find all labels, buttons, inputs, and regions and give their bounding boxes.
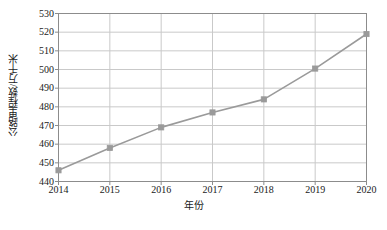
data-point-2016	[159, 125, 164, 130]
data-point-2014	[56, 168, 61, 173]
x-tick-label: 2020	[347, 184, 387, 196]
x-axis-title: 年份	[0, 200, 387, 212]
x-tick-label: 2014	[39, 184, 79, 196]
data-point-2020	[364, 31, 369, 36]
y-axis-ticks	[55, 14, 59, 182]
line-chart: 公路里程数/万千米 440450460470480490500510520530…	[0, 0, 387, 230]
x-axis-tick-labels: 2014201520162017201820192020	[0, 184, 387, 200]
x-tick-label: 2016	[141, 184, 181, 196]
data-point-2019	[313, 66, 318, 71]
data-point-2017	[210, 110, 215, 115]
x-tick-label: 2018	[244, 184, 284, 196]
data-point-2018	[261, 97, 266, 102]
x-axis-title-text: 年份	[184, 200, 204, 211]
x-tick-label: 2015	[90, 184, 130, 196]
x-tick-label: 2019	[295, 184, 335, 196]
vertical-gridlines	[59, 14, 367, 182]
data-point-2015	[107, 145, 112, 150]
x-tick-label: 2017	[193, 184, 233, 196]
